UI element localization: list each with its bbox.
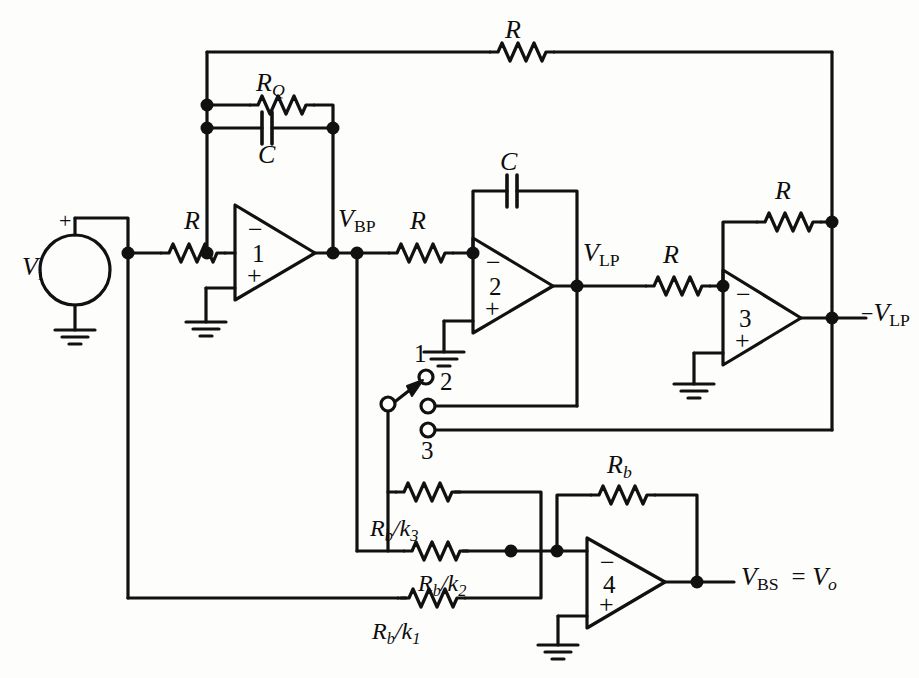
- wire-rbk1-right: [465, 551, 541, 598]
- resistor-rb-k3: [396, 483, 460, 501]
- wire-rb-right: [655, 495, 697, 582]
- wire-c2-right: [517, 191, 577, 286]
- node-label-output: VBS = Vo: [741, 562, 837, 595]
- dot-vlp: [571, 280, 584, 293]
- resistor-input: [161, 244, 225, 262]
- resistor-opamp3-fb-label: R: [775, 176, 791, 206]
- resistor-bp-to-opamp2: [389, 244, 453, 262]
- dot-summing-resistors: [505, 545, 518, 558]
- schematic-canvas: Vi + R RQ C R R C R R Rb Rb/k3 Rb/k2 Rb/…: [0, 0, 919, 678]
- node-label-vlp-negative: −VLP: [861, 298, 910, 331]
- switch-terminal-1-label[interactable]: 1: [414, 340, 427, 368]
- dot-opamp1-out: [327, 247, 340, 260]
- switch-terminal-3[interactable]: [421, 423, 435, 437]
- source-polarity-plus: +: [59, 208, 71, 234]
- capacitor-q-label: C: [258, 140, 275, 170]
- resistor-rb-label: Rb: [607, 450, 632, 483]
- wire-r3fb-left: [723, 222, 757, 286]
- resistor-opamp3-feedback: [757, 213, 821, 231]
- resistor-rb-k2-label: Rb/k2: [418, 570, 466, 601]
- resistor-input-label: R: [184, 206, 200, 236]
- dot-vbp: [351, 247, 364, 260]
- resistor-top-feedback-label: R: [505, 15, 521, 45]
- opamp-3-plus-sign: +: [735, 326, 750, 356]
- resistor-top-feedback: [490, 43, 554, 61]
- dot-cq-left: [201, 122, 214, 135]
- dot-opamp4-out: [691, 576, 704, 589]
- dot-rq-left: [201, 99, 214, 112]
- capacitor-integrator-label: C: [500, 147, 517, 177]
- resistor-rb-k3-label: Rb/k3: [370, 515, 418, 546]
- dot-opamp3-fb: [826, 216, 839, 229]
- resistor-rb-k1-label: Rb/k1: [372, 618, 420, 649]
- resistor-lp-to-opamp3: [646, 277, 710, 295]
- node-label-vlp: VLP: [583, 238, 620, 271]
- switch-terminal-2-label[interactable]: 2: [440, 368, 453, 396]
- switch-terminal-3-label[interactable]: 3: [421, 437, 434, 465]
- junction-dots: [122, 99, 839, 589]
- ground-opamp4: [538, 645, 578, 659]
- resistor-bp-label: R: [410, 206, 426, 236]
- source-label: Vi: [22, 252, 43, 285]
- dot-input-node: [122, 247, 135, 260]
- opamp-4-plus-sign: +: [599, 590, 614, 620]
- resistor-rb-feedback: [591, 486, 655, 504]
- dot-inv1: [201, 247, 214, 260]
- wire-c2-left: [473, 191, 507, 253]
- resistor-rq-label: RQ: [256, 68, 285, 101]
- ground-source: [55, 330, 95, 344]
- dot-inv4: [551, 545, 564, 558]
- dot-vlp-neg: [826, 312, 839, 325]
- node-label-vbp: VBP: [338, 204, 376, 237]
- dot-inv3: [717, 280, 730, 293]
- ground-opamp2: [424, 352, 464, 366]
- opamp-1-plus-sign: +: [247, 261, 262, 291]
- switch-terminal-2[interactable]: [421, 399, 435, 413]
- ground-opamp3: [674, 384, 714, 398]
- source-circle: [40, 235, 110, 305]
- switch-pole-terminal[interactable]: [381, 397, 395, 411]
- grounds: [55, 322, 714, 659]
- dot-inv2: [467, 247, 480, 260]
- ground-opamp1: [186, 322, 226, 336]
- wire-rbk3-right: [455, 492, 541, 551]
- switch-blade-arrowhead[interactable]: [407, 380, 423, 396]
- resistor-lp-label: R: [663, 240, 679, 270]
- dot-cq-right: [327, 122, 340, 135]
- opamp-2-plus-sign: +: [485, 294, 500, 324]
